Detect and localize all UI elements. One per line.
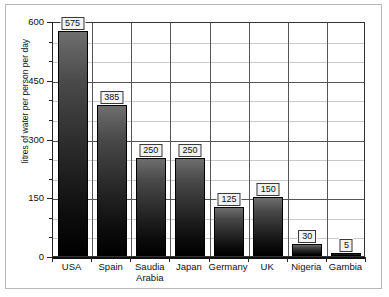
bar-value-label: 250 xyxy=(178,144,201,157)
y-minor-tick xyxy=(49,100,52,101)
y-minor-tick xyxy=(49,218,52,219)
x-category-label-germany: Germany xyxy=(209,262,248,273)
bar-nigeria[interactable]: 30 xyxy=(292,244,322,256)
y-tick-label: 150 xyxy=(0,193,44,203)
y-tick-label: 0 xyxy=(0,252,44,262)
y-minor-tick xyxy=(49,179,52,180)
x-category-label-japan: Japan xyxy=(169,262,208,273)
y-minor-tick xyxy=(49,120,52,121)
y-major-tick xyxy=(47,81,52,82)
bar-usa[interactable]: 575 xyxy=(58,31,88,256)
bar-value-label: 250 xyxy=(139,144,162,157)
y-major-tick xyxy=(47,198,52,199)
bar-saudia-arabia[interactable]: 250 xyxy=(136,158,166,256)
bar-value-label: 30 xyxy=(298,230,316,243)
x-category-label-uk: UK xyxy=(248,262,287,273)
bar-spain[interactable]: 385 xyxy=(97,105,127,256)
bar-japan[interactable]: 250 xyxy=(175,158,205,256)
y-minor-tick xyxy=(49,61,52,62)
bar-column: 250 xyxy=(131,23,170,256)
bars-group: 575385250250125150305 xyxy=(53,23,364,256)
y-major-tick xyxy=(47,22,52,23)
bar-value-label: 150 xyxy=(257,183,280,196)
x-category-label-gambia: Gambia xyxy=(326,262,365,273)
bar-uk[interactable]: 150 xyxy=(253,197,283,256)
bar-germany[interactable]: 125 xyxy=(214,207,244,256)
y-minor-tick xyxy=(49,237,52,238)
x-category-label-spain: Spain xyxy=(91,262,130,273)
bar-value-label: 5 xyxy=(340,239,353,252)
bar-value-label: 575 xyxy=(61,17,84,30)
bar-chart-figure: litres of water per person per day 57538… xyxy=(0,0,389,297)
y-major-tick xyxy=(47,140,52,141)
bar-value-label: 385 xyxy=(100,91,123,104)
y-axis-line xyxy=(52,22,53,258)
bar-value-label: 125 xyxy=(218,193,241,206)
y-minor-tick xyxy=(49,42,52,43)
bar-column: 385 xyxy=(92,23,131,256)
x-category-label-saudia-arabia: Saudia Arabia xyxy=(130,262,169,283)
x-category-label-nigeria: Nigeria xyxy=(287,262,326,273)
y-minor-tick xyxy=(49,159,52,160)
y-tick-label: 300 xyxy=(0,135,44,145)
y-axis-title: litres of water per person per day xyxy=(20,21,30,181)
y-tick-label: 450 xyxy=(0,76,44,86)
bar-column: 5 xyxy=(327,23,366,256)
bar-column: 125 xyxy=(210,23,249,256)
y-tick-label: 600 xyxy=(0,17,44,27)
bar-gambia[interactable]: 5 xyxy=(331,253,361,256)
bar-column: 150 xyxy=(249,23,288,256)
x-category-label-usa: USA xyxy=(52,262,91,273)
bar-column: 575 xyxy=(53,23,92,256)
bar-column: 250 xyxy=(170,23,209,256)
bar-column: 30 xyxy=(288,23,327,256)
plot-area: 575385250250125150305 xyxy=(52,22,365,257)
x-tick xyxy=(365,257,366,262)
